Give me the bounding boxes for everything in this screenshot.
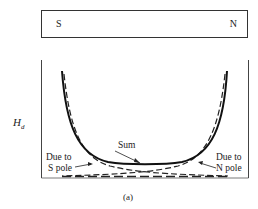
- s-pole-curve: [64, 74, 228, 176]
- n-pole-label-line2: N pole: [216, 163, 242, 174]
- n-pole-curve: [62, 74, 225, 176]
- y-axis-label: Hd: [13, 116, 24, 131]
- sum-curve: [62, 71, 227, 164]
- s-pole-label-line2: S pole: [48, 163, 72, 174]
- n-pole-label-line1: Due to: [216, 152, 242, 163]
- s-pole-arrowhead: [88, 162, 93, 166]
- n-pole-arrowhead: [198, 161, 203, 165]
- field-plot: [0, 0, 258, 209]
- figure-caption: (a): [123, 192, 133, 202]
- sum-label: Sum: [118, 140, 135, 151]
- n-pole-leader: [200, 163, 216, 168]
- sum-arrowhead: [134, 158, 140, 163]
- s-pole-label-line1: Due to: [46, 152, 72, 163]
